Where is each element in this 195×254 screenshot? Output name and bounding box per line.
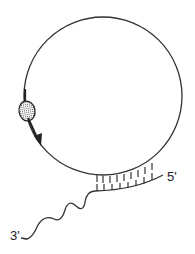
five-prime-label: 5' [167, 170, 177, 183]
base-paired-region [95, 163, 163, 191]
hatched-oval-enzyme [17, 100, 36, 122]
circular-strand [24, 17, 182, 175]
three-prime-label: 3' [10, 229, 20, 242]
wavy-3-prime-tail [21, 191, 95, 239]
diagram-canvas: 5' 3' [0, 0, 195, 254]
direction-arrow-icon [28, 118, 42, 146]
